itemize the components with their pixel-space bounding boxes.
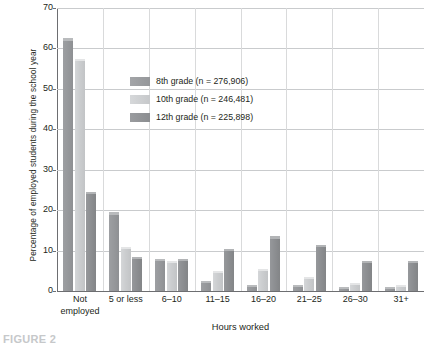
y-tickmark-50: [53, 89, 56, 90]
x-tick-line: 26–30: [332, 294, 378, 306]
bar-face: [213, 273, 223, 291]
legend-item: 8th grade (n = 276,906): [130, 72, 280, 90]
chart-legend: 8th grade (n = 276,906)10th grade (n = 2…: [130, 72, 280, 126]
bar: [75, 61, 85, 291]
x-tick-label: 5 or less: [103, 294, 149, 306]
y-tick-10: 10: [27, 245, 53, 255]
bar-group: [385, 8, 418, 291]
x-axis-tick-labels: Notemployed5 or less6–1011–1516–2021–252…: [57, 294, 424, 324]
bar-face: [350, 285, 360, 291]
bar: [316, 247, 326, 291]
bar-face: [362, 263, 372, 291]
bar-top: [258, 269, 268, 272]
figure-container: Percentage of employed students during t…: [0, 0, 428, 344]
bar: [396, 287, 406, 291]
bar-top: [75, 59, 85, 62]
bar: [167, 263, 177, 291]
bar-face: [132, 259, 142, 291]
legend-label: 10th grade (n = 246,481): [156, 94, 253, 104]
x-tick-label: 21–25: [286, 294, 332, 306]
bar-top: [63, 38, 73, 41]
bar: [385, 289, 395, 291]
bar-face: [155, 261, 165, 291]
x-tick-line: 21–25: [286, 294, 332, 306]
bar: [224, 251, 234, 291]
bar: [201, 283, 211, 291]
y-tick-60: 60: [27, 42, 53, 52]
figure-caption: FIGURE 2: [3, 333, 56, 344]
x-tick-label: Notemployed: [57, 294, 103, 317]
group-separator: [241, 8, 242, 291]
bar-group: [201, 8, 234, 291]
bar-group: [339, 8, 372, 291]
bar: [293, 287, 303, 291]
y-tick-20: 20: [27, 204, 53, 214]
bar-group: [155, 8, 188, 291]
x-axis-line: [57, 291, 424, 292]
x-tick-label: 6–10: [149, 294, 195, 306]
group-separator: [149, 8, 150, 291]
bar: [178, 261, 188, 291]
bar: [63, 40, 73, 291]
x-tick-line: 16–20: [241, 294, 287, 306]
bar: [247, 287, 257, 291]
bar: [155, 261, 165, 291]
group-separator: [195, 8, 196, 291]
x-tick-label: 16–20: [241, 294, 287, 306]
x-axis-title: Hours worked: [57, 322, 424, 332]
bar-top: [270, 236, 280, 239]
legend-label: 12th grade (n = 225,898): [156, 112, 253, 122]
bar-face: [178, 261, 188, 291]
bar-face: [201, 283, 211, 291]
bar-face: [270, 238, 280, 291]
bar-top: [408, 261, 418, 264]
bar-top: [396, 285, 406, 288]
bar-face: [304, 279, 314, 291]
bar-top: [350, 283, 360, 286]
bar-group: [247, 8, 280, 291]
bar: [121, 249, 131, 291]
group-separator: [332, 8, 333, 291]
bar-face: [224, 251, 234, 291]
bar: [270, 238, 280, 291]
bar-face: [247, 287, 257, 291]
y-tickmark-60: [53, 48, 56, 49]
bar: [408, 263, 418, 291]
bar-top: [224, 249, 234, 252]
legend-swatch: [130, 77, 150, 86]
bar: [339, 289, 349, 291]
y-axis-line: [57, 8, 58, 292]
bar: [213, 273, 223, 291]
group-separator: [378, 8, 379, 291]
y-axis-tick-labels: 010203040506070: [25, 8, 53, 291]
bar-face: [396, 287, 406, 291]
y-tickmark-30: [53, 170, 56, 171]
y-tickmark-0: [53, 291, 56, 292]
y-tick-40: 40: [27, 123, 53, 133]
bar-top: [339, 287, 349, 290]
bar-face: [167, 263, 177, 291]
bar-face: [75, 61, 85, 291]
y-tickmark-10: [53, 251, 56, 252]
plot-area: [57, 8, 424, 291]
y-tick-70: 70: [27, 2, 53, 12]
x-tick-line: employed: [57, 306, 103, 318]
x-tick-label: 31+: [378, 294, 424, 306]
bar: [258, 271, 268, 291]
bar-top: [109, 212, 119, 215]
legend-label: 8th grade (n = 276,906): [156, 76, 248, 86]
y-tick-50: 50: [27, 83, 53, 93]
y-tickmark-70: [53, 8, 56, 9]
y-tick-30: 30: [27, 164, 53, 174]
bar: [132, 259, 142, 291]
bar-face: [86, 194, 96, 291]
bar: [86, 194, 96, 291]
bar-group: [63, 8, 96, 291]
bar-group: [109, 8, 142, 291]
bar-face: [121, 249, 131, 291]
legend-item: 10th grade (n = 246,481): [130, 90, 280, 108]
bar-face: [258, 271, 268, 291]
bar-top: [362, 261, 372, 264]
bar-top: [385, 287, 395, 290]
legend-item: 12th grade (n = 225,898): [130, 108, 280, 126]
